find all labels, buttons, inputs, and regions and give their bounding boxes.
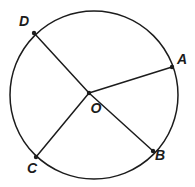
segment-OA	[89, 67, 172, 93]
point-label-A: A	[176, 51, 187, 67]
point-dot-D	[32, 31, 36, 35]
point-label-B: B	[155, 147, 165, 163]
center-label-O: O	[91, 100, 102, 116]
point-label-C: C	[27, 160, 38, 176]
point-dot-A	[170, 65, 174, 69]
geometry-figure: DABCO	[0, 0, 195, 187]
center-dot-O	[87, 91, 91, 95]
circle-outline	[10, 11, 178, 179]
circle-diagram-canvas: DABCO	[0, 0, 195, 187]
segment-OC	[36, 93, 89, 157]
segment-OD	[34, 33, 89, 93]
point-label-D: D	[19, 13, 29, 29]
point-dot-C	[34, 155, 38, 159]
